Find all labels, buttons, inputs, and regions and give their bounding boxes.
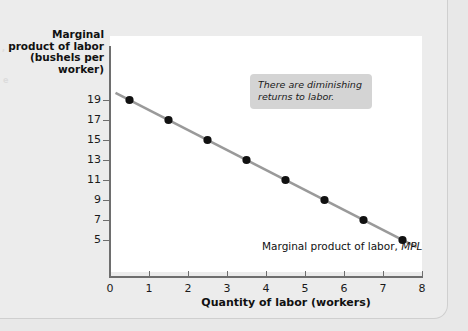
- data-point: [125, 96, 133, 104]
- series-plot: [0, 0, 468, 331]
- data-point: [203, 136, 211, 144]
- diminishing-returns-callout: There are diminishing returns to labor.: [250, 74, 372, 109]
- data-point: [242, 156, 250, 164]
- marginal-product-of-labor-chart: 5791113151719 012345678 Marginalproduct …: [0, 0, 468, 331]
- mpl-trend-line: [116, 93, 417, 247]
- data-point: [359, 216, 367, 224]
- data-point: [320, 196, 328, 204]
- series-label-symbol: MPL: [401, 240, 422, 252]
- data-point: [164, 116, 172, 124]
- series-label-text: Marginal product of labor,: [262, 240, 398, 252]
- data-point: [281, 176, 289, 184]
- series-label: Marginal product of labor, MPL: [262, 240, 422, 252]
